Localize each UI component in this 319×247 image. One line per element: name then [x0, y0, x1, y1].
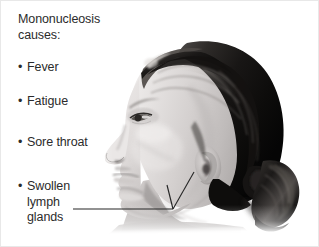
symptom-text-column: Mononucleosis causes: •Fever •Fatigue •S… [18, 11, 138, 43]
profile-photo-svg [91, 29, 306, 234]
list-item-label: Sore throat [27, 135, 88, 151]
bullet-icon: • [18, 179, 27, 195]
page-title-line-1: Mononucleosis [18, 11, 138, 27]
list-item-label: Fever [27, 60, 58, 76]
mononucleosis-figure: Mononucleosis causes: •Fever •Fatigue •S… [0, 0, 319, 247]
page-title-line-2: causes: [18, 27, 138, 43]
list-item-sore-throat: •Sore throat [18, 135, 88, 151]
list-item-fever: •Fever [18, 60, 58, 76]
list-item-fatigue: •Fatigue [18, 94, 68, 110]
bullet-icon: • [18, 60, 27, 76]
list-item-swollen-lymph-glands: •Swollenlymphglands [18, 179, 70, 226]
profile-photo-woman-head-neck [91, 29, 306, 234]
list-item-label: Fatigue [27, 94, 68, 110]
list-item-label: Swollenlymphglands [27, 179, 70, 226]
bullet-icon: • [18, 94, 27, 110]
bullet-icon: • [18, 135, 27, 151]
page-title: Mononucleosis causes: [18, 11, 138, 43]
